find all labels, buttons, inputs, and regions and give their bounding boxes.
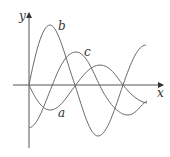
y-axis-label: y <box>18 9 26 23</box>
curve-c-label: c <box>84 45 91 59</box>
curve-c <box>29 52 147 128</box>
curve-b-label: b <box>58 19 66 33</box>
x-axis-label: x <box>157 86 164 100</box>
curve-a <box>29 65 147 110</box>
curve-a-label: a <box>58 106 65 120</box>
function-graph: x y b c a <box>0 0 170 157</box>
curve-b <box>29 25 146 136</box>
